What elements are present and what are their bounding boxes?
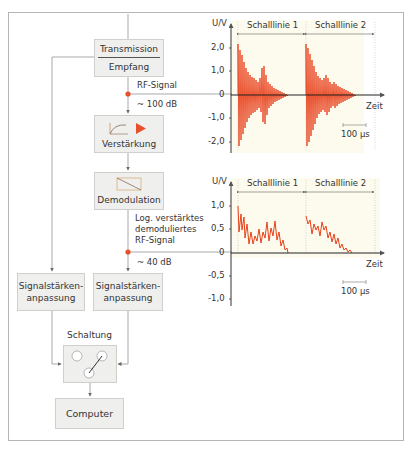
transmission-receive-block: Transmission Empfang bbox=[94, 39, 164, 77]
computer-label: Computer bbox=[66, 408, 113, 420]
demodulation-label: Demodulation bbox=[97, 194, 160, 206]
top-chart-ytick-neg2: -2,0 bbox=[208, 136, 225, 147]
transmission-label: Transmission bbox=[98, 43, 160, 58]
bottom-chart-ytick-1: 1,0 bbox=[211, 200, 225, 211]
log-signal-label-2: demoduliertes bbox=[135, 224, 196, 235]
signal-adjust-left-line1: Signalstärken- bbox=[19, 280, 83, 292]
switch-icon bbox=[64, 346, 118, 384]
signal-adjust-right-line1: Signalstärken- bbox=[96, 280, 160, 292]
switch-block bbox=[63, 345, 117, 383]
switch-label: Schaltung bbox=[67, 330, 112, 341]
bottom-chart-segment-1: Schalllinie 1 bbox=[247, 178, 298, 189]
signal-adjust-left-block: Signalstärken- anpassung bbox=[17, 273, 85, 311]
amplification-label: Verstärkung bbox=[102, 138, 156, 150]
top-chart-ytick-1: 1,0 bbox=[211, 65, 225, 76]
top-chart-y-label: U/V bbox=[212, 18, 227, 29]
rf-tap-dot bbox=[125, 91, 130, 96]
bottom-chart-ytick-05: 0,5 bbox=[211, 223, 225, 234]
top-chart-ytick-neg1: -1,0 bbox=[208, 112, 225, 123]
log-signal-label-3: RF-Signal bbox=[135, 235, 175, 246]
signal-adjust-right-line2: anpassung bbox=[104, 292, 153, 304]
bottom-chart-scale-bar: 100 µs bbox=[341, 286, 370, 297]
log-signal-label-1: Log. verstärktes bbox=[135, 213, 204, 224]
bottom-chart-ytick-0: 0 bbox=[219, 247, 224, 258]
rf-signal-label: RF-Signal bbox=[137, 80, 177, 91]
diagram-canvas bbox=[0, 0, 413, 449]
computer-block: Computer bbox=[55, 398, 124, 429]
log-level-label: ~ 40 dB bbox=[137, 257, 172, 268]
amplification-block: Verstärkung bbox=[94, 115, 164, 153]
top-chart-segment-2: Schalllinie 2 bbox=[315, 20, 366, 31]
bottom-chart-ytick-neg1: -1,0 bbox=[208, 293, 225, 304]
top-chart-ytick-2: 2,0 bbox=[211, 42, 225, 53]
signal-adjust-right-block: Signalstärken- anpassung bbox=[93, 273, 163, 311]
demodulator-icon bbox=[94, 176, 164, 192]
demodulation-block: Demodulation bbox=[94, 172, 164, 210]
bottom-chart-y-label: U/V bbox=[212, 176, 227, 187]
top-chart-segment-1: Schalllinie 1 bbox=[247, 20, 298, 31]
rf-level-label: ~ 100 dB bbox=[137, 99, 177, 110]
bottom-chart-ytick-neg05: -0,5 bbox=[208, 270, 225, 281]
signal-adjust-left-line2: anpassung bbox=[27, 292, 76, 304]
bottom-chart-x-label: Zeit bbox=[366, 259, 383, 270]
bottom-chart-segment-2: Schalllinie 2 bbox=[315, 178, 366, 189]
top-chart-x-label: Zeit bbox=[366, 101, 383, 112]
top-chart-ytick-0: 0 bbox=[219, 89, 224, 100]
amplifier-icon bbox=[94, 119, 164, 137]
log-tap-dot bbox=[125, 249, 130, 254]
top-chart-scale-bar: 100 µs bbox=[341, 129, 370, 140]
receive-label: Empfang bbox=[109, 61, 149, 73]
